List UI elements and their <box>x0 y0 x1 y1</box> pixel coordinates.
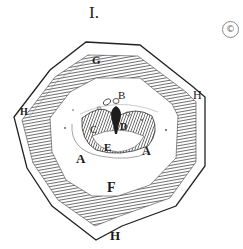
label-b: B <box>118 90 125 101</box>
diagram-figure: I. © G <box>0 0 243 249</box>
label-h-right: H <box>193 89 202 101</box>
label-d: D <box>120 122 127 132</box>
label-a-right: A <box>142 145 151 157</box>
label-h-bottom: H <box>110 229 120 242</box>
label-f: F <box>107 181 116 195</box>
label-g: G <box>92 55 101 66</box>
label-c: C <box>90 125 97 135</box>
label-e: E <box>104 142 111 153</box>
label-a-left: A <box>76 152 85 165</box>
label-h-left: H <box>20 107 28 117</box>
